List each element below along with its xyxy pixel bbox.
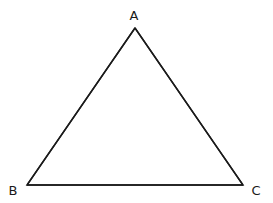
vertex-label-b: B (9, 183, 18, 198)
triangle-abc (27, 28, 243, 185)
edge-ca (135, 28, 243, 185)
edge-ab (27, 28, 135, 185)
triangle-diagram: A B C (0, 0, 273, 203)
vertex-label-c: C (251, 183, 260, 198)
vertex-label-a: A (130, 8, 139, 23)
